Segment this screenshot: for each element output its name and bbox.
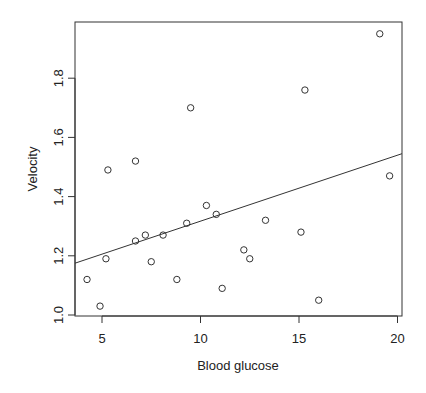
data-point — [386, 173, 392, 179]
x-tick-label: 5 — [98, 331, 105, 346]
y-tick-label: 1.8 — [51, 69, 66, 87]
x-tick-label: 10 — [193, 331, 207, 346]
data-point — [203, 202, 209, 208]
data-point — [213, 211, 219, 217]
x-axis: 5101520 — [98, 316, 404, 346]
data-point — [377, 31, 383, 37]
data-point — [160, 232, 166, 238]
plot-frame — [75, 22, 402, 316]
data-point — [262, 217, 268, 223]
data-point — [132, 158, 138, 164]
data-point — [298, 229, 304, 235]
data-point — [247, 256, 253, 262]
data-point — [187, 105, 193, 111]
data-point — [316, 297, 322, 303]
data-point — [84, 276, 90, 282]
y-tick-label: 1.2 — [51, 247, 66, 265]
x-tick-label: 15 — [292, 331, 306, 346]
data-point — [302, 87, 308, 93]
scatter-plot: 5101520 1.01.21.41.61.8 Blood glucose Ve… — [0, 0, 426, 393]
x-tick-label: 20 — [390, 331, 404, 346]
y-axis-label: Velocity — [25, 146, 40, 191]
y-tick-label: 1.0 — [51, 306, 66, 324]
y-tick-label: 1.4 — [51, 188, 66, 206]
data-point — [97, 303, 103, 309]
y-tick-label: 1.6 — [51, 128, 66, 146]
data-point — [148, 259, 154, 265]
data-point — [174, 276, 180, 282]
x-axis-label: Blood glucose — [197, 358, 279, 373]
regression-line — [75, 154, 402, 264]
plot-area — [75, 31, 402, 310]
data-point — [142, 232, 148, 238]
data-point — [241, 247, 247, 253]
data-point — [219, 285, 225, 291]
data-point — [103, 256, 109, 262]
y-axis: 1.01.21.41.61.8 — [51, 69, 75, 324]
data-point — [105, 167, 111, 173]
